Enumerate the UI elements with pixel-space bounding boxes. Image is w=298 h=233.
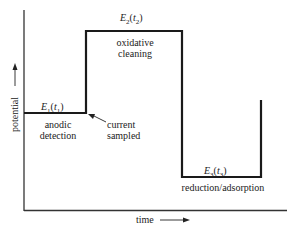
e2-subscript: 2 [126, 18, 130, 26]
t3-subscript: 3 [220, 171, 224, 179]
e3-label: E3(t3) [204, 165, 227, 181]
y-axis-label: potential [9, 97, 20, 132]
y-label-arrowhead [13, 63, 18, 70]
step2-line2: cleaning [107, 48, 163, 59]
e3-subscript: 3 [210, 171, 214, 179]
e1-label: E1(t1) [41, 101, 64, 117]
step1-line2: detection [36, 130, 80, 141]
step1-line1: anodic [36, 119, 80, 130]
current-sampled-arrowhead [88, 114, 95, 119]
t1-subscript: 1 [57, 107, 61, 115]
x-axis-label: time [136, 214, 154, 225]
step3-line1: reduction/adsorption [174, 182, 272, 193]
e2-label: E2(t2) [120, 12, 143, 28]
current-line2: sampled [107, 130, 140, 141]
current-line1: current [107, 119, 140, 130]
anodic-detection-label: anodic detection [36, 119, 80, 141]
reduction-adsorption-label: reduction/adsorption [174, 182, 272, 193]
oxidative-cleaning-label: oxidative cleaning [107, 37, 163, 59]
x-label-arrowhead [183, 218, 190, 223]
step2-line1: oxidative [107, 37, 163, 48]
e1-subscript: 1 [47, 107, 51, 115]
t2-subscript: 2 [136, 18, 140, 26]
current-sampled-label: current sampled [107, 119, 140, 141]
